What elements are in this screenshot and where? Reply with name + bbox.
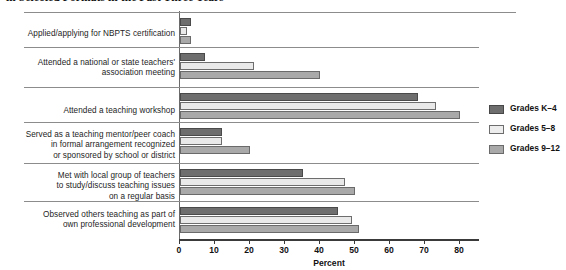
x-axis-tick-label: 10	[194, 245, 234, 255]
bar	[180, 27, 187, 35]
row-separator	[24, 163, 479, 164]
x-axis-tick	[179, 239, 180, 244]
category-label: Served as a teaching mentor/peer coachin…	[0, 130, 175, 161]
row-separator	[24, 47, 479, 48]
category-label: Met with local group of teachersto study…	[0, 171, 175, 202]
bar	[180, 178, 345, 186]
category-label-line: Attended a teaching workshop	[0, 106, 175, 116]
x-axis-tick	[249, 239, 250, 244]
bar	[180, 93, 418, 101]
row-separator	[24, 87, 479, 88]
legend-item[interactable]: Grades 9–12	[489, 143, 564, 163]
bar	[180, 18, 191, 26]
bar	[180, 128, 222, 136]
bar	[180, 53, 205, 61]
x-axis-tick	[319, 239, 320, 244]
x-axis-tick	[214, 239, 215, 244]
x-axis-tick	[284, 239, 285, 244]
bar	[180, 36, 191, 44]
category-label: Applied/applying for NBPTS certification	[0, 29, 175, 39]
category-label-line: Met with local group of teachers	[0, 171, 175, 181]
category-label-line: Attended a national or state teachers'	[0, 58, 175, 68]
legend-item[interactable]: Grades 5–8	[489, 123, 564, 143]
x-axis-tick	[354, 239, 355, 244]
x-axis-tick	[389, 239, 390, 244]
x-axis-tick-label: 50	[334, 245, 374, 255]
x-axis-tick	[424, 239, 425, 244]
x-axis-title: Percent	[179, 258, 479, 268]
bar	[180, 146, 250, 154]
bar	[180, 71, 320, 79]
chart-title: in Selected Formats in the Past Three Ye…	[6, 0, 224, 3]
legend-label: Grades K–4	[510, 103, 557, 113]
category-label: Attended a teaching workshop	[0, 106, 175, 116]
legend-swatch	[489, 105, 504, 114]
bar	[180, 137, 222, 145]
row-separator	[24, 12, 516, 13]
category-label-line: association meeting	[0, 68, 175, 78]
x-axis-tick-labels: 01020304050607080	[0, 245, 566, 257]
bar	[180, 207, 338, 215]
row-separator	[24, 122, 479, 123]
category-label-line: in formal arrangement recognized	[0, 140, 175, 150]
category-label-line: or sponsored by school or district	[0, 151, 175, 161]
category-label: Observed others teaching as part ofown p…	[0, 210, 175, 231]
x-axis-tick-label: 40	[299, 245, 339, 255]
x-axis-tick-label: 70	[404, 245, 444, 255]
bar	[180, 102, 436, 110]
category-label: Attended a national or state teachers'as…	[0, 58, 175, 79]
category-label-line: Observed others teaching as part of	[0, 210, 175, 220]
legend-swatch	[489, 125, 504, 134]
bar-chart: in Selected Formats in the Past Three Ye…	[0, 0, 566, 270]
value-axis-line	[179, 11, 180, 239]
bar	[180, 187, 355, 195]
x-axis-tick-label: 0	[159, 245, 199, 255]
legend-label: Grades 5–8	[510, 123, 555, 133]
x-axis-tick-label: 20	[229, 245, 269, 255]
legend-item[interactable]: Grades K–4	[489, 103, 564, 123]
bar	[180, 62, 254, 70]
x-axis-tick-label: 80	[439, 245, 479, 255]
chart-legend: Grades K–4Grades 5–8Grades 9–12	[489, 103, 564, 163]
bar	[180, 169, 303, 177]
bar	[180, 225, 359, 233]
bar	[180, 111, 460, 119]
bar	[180, 216, 352, 224]
category-label-line: Applied/applying for NBPTS certification	[0, 29, 175, 39]
category-label-line: own professional development	[0, 220, 175, 230]
category-label-line: to study/discuss teaching issues	[0, 181, 175, 191]
x-axis-tick	[459, 239, 460, 244]
category-label-line: on a regular basis	[0, 192, 175, 202]
plot-area: Applied/applying for NBPTS certification…	[0, 11, 566, 239]
x-axis-tick-label: 60	[369, 245, 409, 255]
legend-swatch	[489, 145, 504, 154]
x-axis-tick-label: 30	[264, 245, 304, 255]
category-label-line: Served as a teaching mentor/peer coach	[0, 130, 175, 140]
legend-label: Grades 9–12	[510, 143, 560, 153]
